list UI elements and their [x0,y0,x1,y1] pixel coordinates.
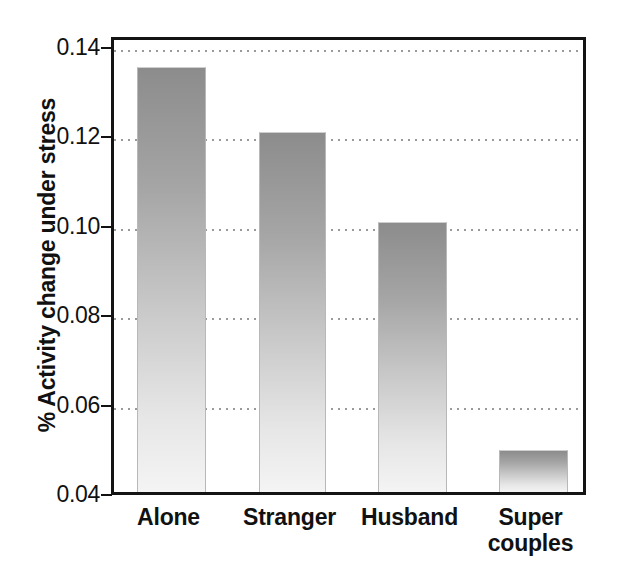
x-category-label-line2: couples [456,530,605,556]
x-category-label: Supercouples [456,504,605,557]
bar [499,450,568,492]
bar-chart-figure: % Activity change under stress 0.140.120… [0,0,620,576]
y-axis-tick-labels: 0.140.120.100.080.060.04 [34,0,100,576]
y-tick-label: 0.10 [34,215,100,238]
gridline [114,50,583,52]
y-tick-label: 0.14 [34,36,100,59]
x-category-label-line1: Super [456,504,605,530]
bar [259,132,326,492]
plot-area [111,37,586,495]
y-tick-label: 0.12 [34,125,100,148]
y-tick-label: 0.04 [34,483,100,506]
bar [378,222,447,492]
y-tick-label: 0.08 [34,304,100,327]
y-tick-label: 0.06 [34,394,100,417]
bar [137,67,206,492]
